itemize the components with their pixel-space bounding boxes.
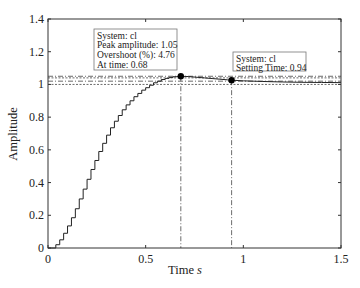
y-tick-label: 0 — [38, 241, 44, 255]
y-tick-label: 0.6 — [29, 143, 44, 157]
reference-lines — [48, 76, 341, 248]
settling-marker[interactable] — [228, 77, 234, 83]
annotation-line: Setting Time: 0.94 — [236, 63, 307, 73]
x-tick-label: 0.5 — [138, 252, 153, 266]
y-tick-label: 1.2 — [29, 45, 44, 59]
y-axis-label: Amplitude — [6, 107, 20, 161]
y-tick-label: 1.4 — [29, 12, 44, 26]
peak-marker[interactable] — [178, 73, 184, 79]
x-tick-label: 1 — [240, 252, 246, 266]
y-tick-label: 1 — [38, 77, 44, 91]
x-tick-label: 0 — [45, 252, 51, 266]
annotation-line: System: cl — [97, 31, 137, 41]
annotation-line: At time: 0.68 — [97, 60, 148, 70]
step-response-chart: 00.511.5 00.20.40.60.811.21.4 System: cl… — [0, 0, 360, 288]
y-axis-ticks: 00.20.40.60.811.21.4 — [29, 12, 341, 255]
y-tick-label: 0.4 — [29, 176, 44, 190]
x-tick-label: 1.5 — [334, 252, 349, 266]
step-response-line — [48, 76, 341, 248]
y-tick-label: 0.2 — [29, 208, 44, 222]
annotation-line: System: cl — [236, 54, 276, 64]
settling-annotation: System: clSetting Time: 0.94 — [233, 52, 307, 73]
x-axis-label: Time s — [168, 263, 202, 277]
peak-annotation: System: clPeak amplitude: 1.05Overshoot … — [94, 29, 178, 70]
response-curve — [48, 76, 341, 248]
y-tick-label: 0.8 — [29, 110, 44, 124]
annotation-line: Peak amplitude: 1.05 — [97, 40, 178, 50]
annotations: System: clPeak amplitude: 1.05Overshoot … — [94, 29, 307, 73]
